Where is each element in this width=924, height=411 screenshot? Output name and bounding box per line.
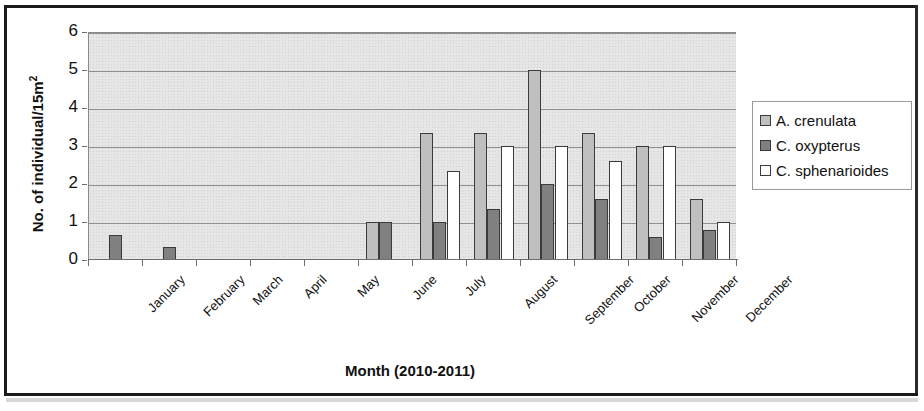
bar-group (251, 33, 305, 260)
bar (487, 209, 500, 260)
x-tick-label-june: June (409, 272, 440, 303)
bar (109, 235, 122, 260)
bar-group (521, 33, 575, 260)
legend-label: C. sphenarioides (776, 162, 889, 179)
x-tick-mark (574, 260, 575, 266)
legend-swatch-icon (760, 165, 771, 176)
x-tick-label-september: September (582, 272, 638, 328)
legend-item: C. oxypterus (760, 133, 905, 158)
y-tick-mark-3 (82, 146, 87, 147)
bar (555, 146, 568, 260)
y-tick-label-2: 2 (8, 173, 78, 193)
bar-group (413, 33, 467, 260)
x-tick-mark (88, 260, 89, 266)
x-axis-title: Month (2010-2011) (180, 362, 640, 379)
figure-border-top (4, 5, 918, 8)
legend-swatch-icon (760, 140, 771, 151)
bar-group (467, 33, 521, 260)
x-tick-mark (628, 260, 629, 266)
x-tick-label-february: February (200, 272, 247, 319)
bar-group (683, 33, 736, 260)
y-tick-label-6: 6 (8, 21, 78, 41)
x-tick-label-august: August (521, 272, 560, 311)
bar (528, 70, 541, 260)
bar (582, 133, 595, 260)
legend-label: C. oxypterus (776, 137, 860, 154)
y-tick-label-3: 3 (8, 135, 78, 155)
y-tick-label-4: 4 (8, 97, 78, 117)
x-tick-label-january: January (145, 272, 188, 315)
bar-group (629, 33, 683, 260)
bar (541, 184, 554, 260)
y-tick-mark-0 (82, 260, 87, 261)
y-tick-label-0: 0 (8, 249, 78, 269)
bar-group (359, 33, 413, 260)
y-axis-ticks: 0123456 (0, 32, 78, 260)
bar-group (197, 33, 251, 260)
x-tick-mark (520, 260, 521, 266)
x-tick-mark (250, 260, 251, 266)
x-tick-label-march: March (250, 272, 286, 308)
bar (379, 222, 392, 260)
y-tick-mark-4 (82, 108, 87, 109)
legend-item: C. sphenarioides (760, 158, 905, 183)
bar-group (575, 33, 629, 260)
y-tick-mark-6 (82, 32, 87, 33)
bar (447, 171, 460, 260)
bar (474, 133, 487, 260)
bar (690, 199, 703, 260)
x-tick-label-july: July (462, 272, 489, 299)
legend-swatch-icon (760, 115, 771, 126)
x-tick-mark (304, 260, 305, 266)
x-tick-label-october: October (631, 272, 674, 315)
y-tick-label-1: 1 (8, 211, 78, 231)
x-tick-label-november: November (689, 272, 742, 325)
bar (595, 199, 608, 260)
plot-area (88, 32, 736, 260)
x-tick-label-december: December (743, 272, 796, 325)
legend-item: A. crenulata (760, 108, 905, 133)
bar (433, 222, 446, 260)
x-tick-mark (466, 260, 467, 266)
chart-figure: No. of individual/15m2 0123456 JanuaryFe… (0, 0, 924, 411)
bar (366, 222, 379, 260)
figure-border-bottom (4, 393, 918, 396)
figure-border-shadow (6, 398, 918, 402)
y-tick-mark-2 (82, 184, 87, 185)
chart-legend: A. crenulataC. oxypterusC. sphenarioides (752, 101, 912, 190)
figure-border-right (915, 5, 918, 396)
legend-label: A. crenulata (776, 112, 856, 129)
bar-group (305, 33, 359, 260)
x-tick-label-may: May (354, 272, 382, 300)
x-tick-mark (682, 260, 683, 266)
y-tick-label-5: 5 (8, 59, 78, 79)
y-tick-mark-1 (82, 222, 87, 223)
x-tick-mark (142, 260, 143, 266)
bar-group (143, 33, 197, 260)
bar (501, 146, 514, 260)
bar (663, 146, 676, 260)
bar (636, 146, 649, 260)
y-tick-mark-5 (82, 70, 87, 71)
x-tick-mark (358, 260, 359, 266)
x-axis-line (88, 259, 738, 260)
bar-group (89, 33, 143, 260)
bar (420, 133, 433, 260)
x-tick-label-april: April (301, 272, 330, 301)
bar (703, 230, 716, 260)
bar (609, 161, 622, 260)
bar (717, 222, 730, 260)
bar (649, 237, 662, 260)
x-tick-mark (736, 260, 737, 266)
x-tick-mark (412, 260, 413, 266)
x-tick-mark (196, 260, 197, 266)
